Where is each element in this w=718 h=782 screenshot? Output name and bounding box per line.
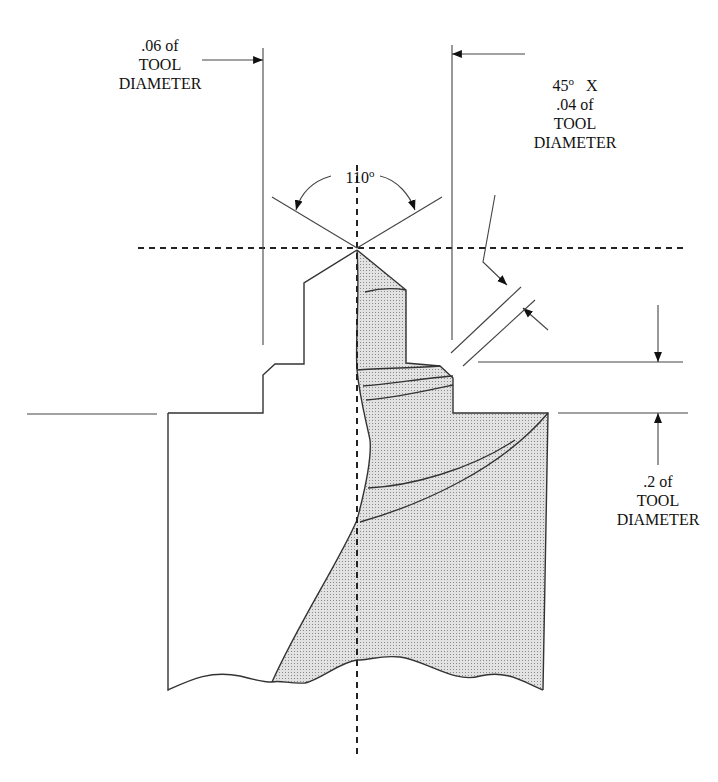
chamfer-label: 45o X .04 of TOOL DIAMETER: [515, 76, 635, 152]
flute-shading: [272, 250, 548, 690]
point-angle-label: 110o: [330, 168, 390, 187]
land-width-label: .06 of TOOL DIAMETER: [100, 36, 220, 93]
step-length-label: .2 of TOOL DIAMETER: [598, 472, 718, 529]
tool-outline: [168, 413, 272, 690]
